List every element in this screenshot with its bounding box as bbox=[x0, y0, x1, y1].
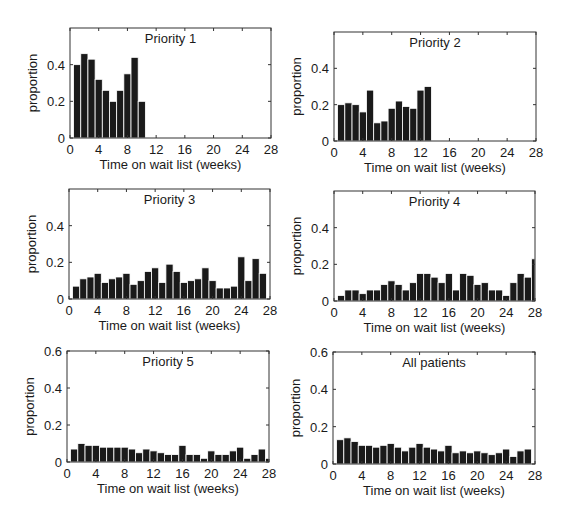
y-tick-label: 0.6 bbox=[44, 344, 62, 359]
bar bbox=[359, 112, 366, 141]
bar bbox=[131, 57, 138, 138]
bar bbox=[366, 90, 373, 141]
x-tick-label: 12 bbox=[146, 466, 160, 481]
bar bbox=[344, 438, 351, 464]
x-tick-label: 28 bbox=[529, 145, 543, 160]
bar bbox=[200, 458, 207, 462]
bar bbox=[244, 458, 251, 462]
bar bbox=[80, 279, 87, 299]
x-tick-label: 28 bbox=[264, 142, 278, 157]
bar bbox=[71, 449, 78, 462]
x-tick-label: 4 bbox=[95, 142, 102, 157]
bar bbox=[409, 447, 416, 464]
bar bbox=[130, 284, 137, 299]
panel-title: Priority 2 bbox=[409, 35, 460, 50]
bar bbox=[374, 123, 381, 141]
y-tick-label: 0.4 bbox=[311, 61, 329, 76]
bar bbox=[352, 105, 359, 141]
x-tick-label: 16 bbox=[442, 305, 456, 320]
bars bbox=[71, 444, 269, 463]
x-tick-label: 24 bbox=[233, 466, 247, 481]
bars bbox=[338, 87, 432, 142]
panel-1: 048121620242800.20.4Priority 2Time on wa… bbox=[289, 32, 543, 175]
bar bbox=[109, 101, 116, 138]
bar bbox=[258, 449, 265, 462]
bar bbox=[460, 274, 467, 302]
panel-5: 048121620242800.20.40.6All patientsTime … bbox=[288, 345, 542, 498]
x-tick-label: 12 bbox=[412, 468, 426, 483]
y-tick-label: 0.2 bbox=[310, 420, 328, 435]
bar bbox=[388, 281, 395, 301]
bar bbox=[352, 290, 359, 301]
bar bbox=[388, 108, 395, 141]
x-tick-label: 16 bbox=[175, 466, 189, 481]
x-tick-label: 28 bbox=[528, 468, 542, 483]
x-tick-label: 4 bbox=[94, 303, 101, 318]
x-tick-label: 8 bbox=[388, 305, 395, 320]
bar bbox=[159, 283, 166, 300]
x-axis-label: Time on wait list (weeks) bbox=[364, 320, 506, 335]
bar bbox=[223, 288, 230, 299]
bar bbox=[143, 449, 150, 462]
x-tick-label: 8 bbox=[123, 303, 130, 318]
bar bbox=[338, 105, 345, 141]
y-tick-label: 0.4 bbox=[311, 221, 329, 236]
y-tick-label: 0.4 bbox=[44, 381, 62, 396]
bar bbox=[74, 65, 81, 138]
x-tick-label: 28 bbox=[263, 303, 277, 318]
x-tick-label: 24 bbox=[234, 303, 248, 318]
y-tick-label: 0.4 bbox=[310, 382, 328, 397]
bar bbox=[252, 259, 259, 299]
x-tick-label: 0 bbox=[330, 305, 337, 320]
bar bbox=[193, 455, 200, 462]
panel-0: 048121620242800.20.4Priority 1Time on wa… bbox=[25, 28, 278, 172]
bar bbox=[387, 443, 394, 464]
bar bbox=[430, 449, 437, 464]
bar bbox=[117, 90, 124, 138]
bar bbox=[394, 447, 401, 464]
y-tick-label: 0.2 bbox=[47, 94, 65, 109]
bar bbox=[173, 272, 180, 300]
bar bbox=[366, 290, 373, 301]
bar bbox=[136, 453, 143, 462]
y-tick-label: 0 bbox=[55, 455, 62, 470]
bar bbox=[445, 274, 452, 302]
x-tick-label: 20 bbox=[204, 466, 218, 481]
panel-4: 048121620242800.20.40.6Priority 5Time on… bbox=[22, 344, 276, 496]
x-tick-label: 0 bbox=[66, 142, 73, 157]
bar bbox=[172, 455, 179, 462]
x-tick-label: 8 bbox=[387, 468, 394, 483]
x-tick-label: 4 bbox=[358, 468, 365, 483]
bar bbox=[128, 449, 135, 462]
bar bbox=[108, 279, 115, 299]
bar bbox=[403, 106, 410, 141]
x-tick-label: 12 bbox=[413, 305, 427, 320]
y-tick-label: 0 bbox=[57, 292, 64, 307]
bar bbox=[157, 453, 164, 462]
y-axis-label: proportion bbox=[289, 217, 304, 276]
y-tick-label: 0.2 bbox=[311, 257, 329, 272]
y-tick-label: 0.4 bbox=[46, 219, 64, 234]
bar bbox=[88, 59, 95, 138]
x-tick-label: 20 bbox=[206, 142, 220, 157]
panel-title: Priority 4 bbox=[409, 194, 460, 209]
y-tick-label: 0 bbox=[322, 134, 329, 149]
bars bbox=[337, 438, 532, 464]
y-tick-label: 0.2 bbox=[46, 255, 64, 270]
bar bbox=[410, 108, 417, 141]
x-tick-label: 24 bbox=[500, 145, 514, 160]
bar bbox=[338, 296, 345, 302]
y-tick-label: 0.2 bbox=[311, 98, 329, 113]
x-tick-label: 20 bbox=[470, 305, 484, 320]
y-tick-label: 0.2 bbox=[44, 418, 62, 433]
bars bbox=[338, 259, 535, 301]
bar bbox=[416, 443, 423, 464]
bar bbox=[373, 290, 380, 301]
bar bbox=[380, 445, 387, 464]
bar bbox=[381, 121, 388, 141]
bar bbox=[265, 458, 269, 462]
bar bbox=[524, 449, 531, 464]
bar bbox=[517, 451, 524, 464]
bar bbox=[202, 268, 209, 299]
x-tick-label: 28 bbox=[528, 305, 542, 320]
